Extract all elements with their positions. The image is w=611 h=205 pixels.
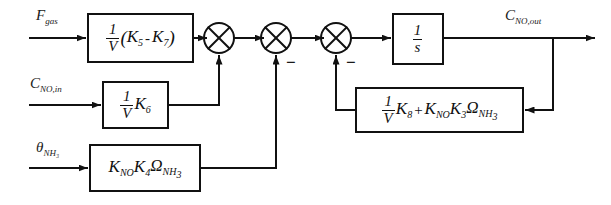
term-k7: K7 — [152, 27, 168, 48]
operator-plus-feedback: + — [412, 102, 424, 119]
wire-noin-to-sum1 — [168, 56, 219, 105]
term-k6: K6 — [134, 94, 150, 115]
minus-sign-summing-junction-2: − — [286, 54, 296, 71]
term-omega-nh3: ΩNH3 — [150, 156, 181, 180]
fraction-one-over-v-gas: 1 V — [106, 22, 119, 54]
term-k3: K3 — [450, 99, 466, 120]
block-no-in-gain-label: 1 V K6 — [103, 82, 168, 128]
term-k4: K4 — [134, 157, 150, 178]
term-omega-nh3-feedback: ΩNH3 — [466, 98, 497, 122]
wire-nh3-to-sum2 — [200, 56, 276, 168]
input-label-c-no-in: CNO,in — [30, 76, 62, 94]
block-feedback-label: 1 V K8 + KNO K3 ΩNH3 — [356, 88, 523, 132]
fraction-one-over-v-feedback: 1 V — [382, 94, 395, 126]
paren-close-gas: ) — [168, 27, 174, 49]
input-label-f-gas: Fgas — [36, 8, 58, 26]
block-nh3-gain-label: KNO K4 ΩNH3 — [90, 145, 200, 191]
term-k-no-feedback: KNO — [425, 99, 450, 120]
block-gas-gain-label: 1 V ( K5 - K7 ) — [88, 14, 193, 62]
minus-sign-summing-junction-3: − — [346, 54, 356, 71]
term-k8: K8 — [396, 99, 412, 120]
fraction-one-over-v-noin: 1 V — [120, 89, 133, 121]
term-k5: K5 — [127, 27, 143, 48]
block-integrator-label: 1 s — [393, 14, 443, 64]
wire-output-tap-to-feedback — [526, 38, 553, 110]
input-label-theta-nh3: θNH₃ — [36, 140, 59, 158]
term-k-no: KNO — [109, 157, 134, 178]
operator-minus-gas: - — [143, 30, 152, 47]
block-diagram: Fgas CNO,in θNH₃ CNO,out − − 1 V ( K5 - … — [0, 0, 611, 205]
fraction-one-over-s: 1 s — [412, 23, 424, 55]
output-label-c-no-out: CNO,out — [505, 8, 541, 26]
